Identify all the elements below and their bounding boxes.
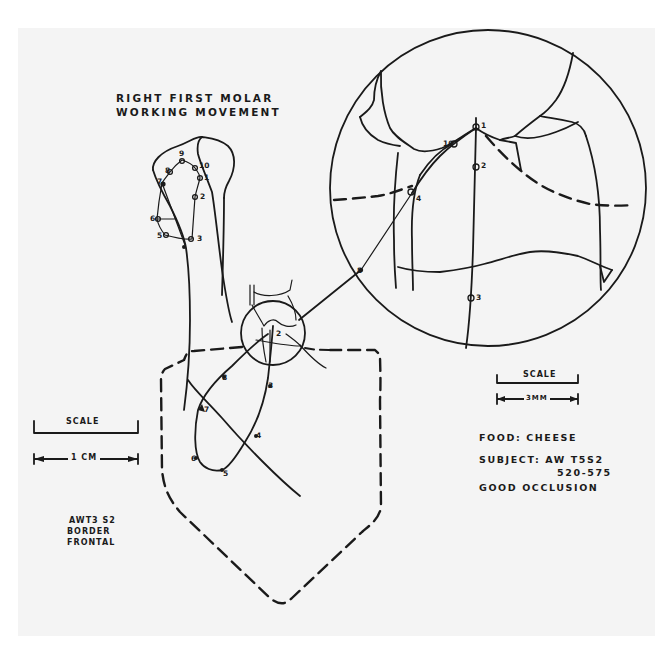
point-label-mag-3: 3	[476, 294, 481, 302]
point-label-mag-8: 8	[357, 267, 362, 275]
point-label-upper-1: 1	[204, 174, 209, 182]
specimen-frontal: FRONTAL	[67, 539, 115, 547]
point-label-lower-4: 4	[256, 432, 261, 440]
point-label-lower-6: 6	[191, 455, 196, 463]
point-label-upper-10: 10	[199, 162, 209, 170]
subject-range: 520-575	[557, 468, 612, 478]
scale-right-label: SCALE	[521, 371, 558, 379]
point-label-mag-10: 10	[443, 140, 453, 148]
point-label-lower-5: 5	[223, 470, 228, 478]
occlusion-label: GOOD OCCLUSION	[479, 483, 598, 493]
point-label-lower-8: 8	[222, 374, 227, 382]
point-label-mag-2: 2	[481, 162, 486, 170]
point-label-lower-7: 7	[204, 406, 209, 414]
point-label-upper-9: 9	[179, 150, 184, 158]
subject-label: SUBJECT: AW T5S2	[479, 455, 604, 465]
point-label-upper-2: 2	[200, 193, 205, 201]
connector-line-upper	[299, 270, 361, 320]
food-label: FOOD: CHEESE	[479, 433, 577, 443]
scale-left-unit: 1 CM	[68, 454, 100, 462]
specimen-id: AWT3 S2	[69, 517, 116, 525]
point-label-upper-7: 7	[157, 178, 162, 186]
point-label-mag-1: 1	[481, 122, 486, 130]
point-label-upper-8: 8	[165, 167, 170, 175]
connector-line-inner	[361, 193, 412, 270]
magnified-view	[330, 30, 646, 348]
specimen-border: BORDER	[67, 528, 110, 536]
scale-right-unit: 3MM	[524, 395, 550, 402]
tracing-diagram	[0, 0, 670, 649]
point-label-upper-3: 3	[197, 235, 202, 243]
point-label-upper-5: 5	[157, 232, 162, 240]
scale-left-label: SCALE	[64, 418, 101, 426]
figure-title-line1: RIGHT FIRST MOLAR	[116, 91, 273, 105]
border-envelope-dash-tail	[305, 348, 330, 350]
locator-circle	[241, 280, 326, 368]
point-label-upper-6: 6	[150, 215, 155, 223]
upper-trace-path	[156, 159, 203, 249]
point-label-mag-4: 4	[416, 195, 421, 203]
point-label-lower-3: 3	[268, 382, 273, 390]
figure-title-line2: WORKING MOVEMENT	[116, 105, 281, 119]
point-label-lower-2: 2	[276, 330, 281, 338]
